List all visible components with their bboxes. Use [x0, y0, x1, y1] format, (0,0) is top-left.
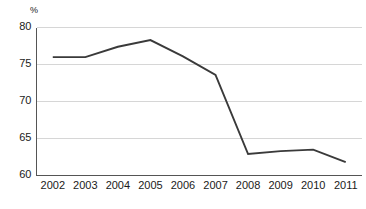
- x-tick-label: 2010: [301, 179, 325, 191]
- x-tick-label: 2005: [138, 179, 162, 191]
- x-tick-label: 2009: [268, 179, 292, 191]
- y-tick-label: 60: [19, 168, 31, 180]
- x-tick-label: 2007: [203, 179, 227, 191]
- x-tick-label: 2004: [106, 179, 130, 191]
- line-chart: 6065707580 20022003200420052006200720082…: [0, 0, 366, 209]
- y-axis-tick-labels: 6065707580: [19, 20, 31, 180]
- x-tick-label: 2006: [171, 179, 195, 191]
- y-tick-label: 80: [19, 20, 31, 32]
- x-tick-label: 2008: [236, 179, 260, 191]
- x-tick-label: 2011: [334, 179, 358, 191]
- chart-canvas: 6065707580 20022003200420052006200720082…: [0, 0, 366, 209]
- x-tick-label: 2003: [73, 179, 97, 191]
- x-tick-label: 2002: [41, 179, 65, 191]
- y-tick-label: 75: [19, 57, 31, 69]
- y-tick-label: 65: [19, 131, 31, 143]
- y-tick-label: 70: [19, 94, 31, 106]
- x-axis-tick-labels: 2002200320042005200620072008200920102011: [41, 179, 358, 191]
- y-axis-unit-label: %: [30, 5, 38, 15]
- gridlines: [37, 28, 363, 139]
